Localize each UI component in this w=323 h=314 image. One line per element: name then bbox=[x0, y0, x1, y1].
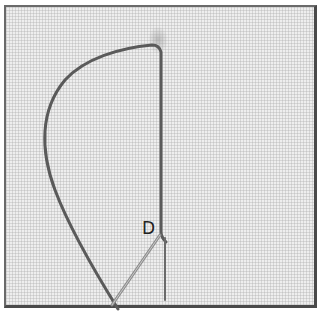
needle-shaft-highlight bbox=[112, 235, 160, 305]
pierce-shadow bbox=[148, 26, 168, 54]
thread-loop bbox=[45, 45, 166, 309]
stitch-illustration bbox=[0, 0, 323, 314]
point-label-d: D bbox=[142, 220, 155, 237]
